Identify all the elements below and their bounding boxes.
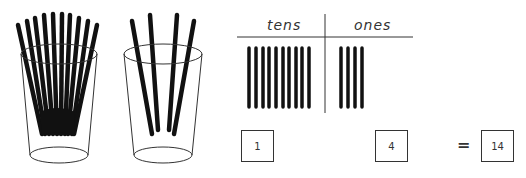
- tens-value-box: 1: [241, 130, 274, 162]
- ones-value: 4: [388, 141, 394, 152]
- ones-bars: [341, 48, 362, 107]
- total-box: 14: [481, 130, 514, 162]
- cups-illustration: [0, 0, 230, 178]
- ones-cup: [124, 15, 202, 163]
- ones-header: ones: [354, 17, 391, 33]
- equals-sign: =: [457, 135, 470, 154]
- tens-bars: [249, 48, 309, 107]
- tens-value: 1: [254, 141, 260, 152]
- tens-cup: [18, 14, 97, 163]
- ones-value-box: 4: [375, 130, 408, 162]
- total-value: 14: [491, 141, 504, 152]
- tens-header: tens: [267, 17, 301, 33]
